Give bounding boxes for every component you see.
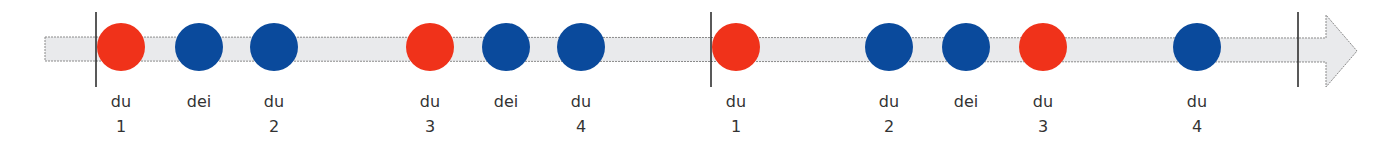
beat-count-label: 3 [400, 117, 460, 137]
beat-count-label: 2 [859, 117, 919, 137]
syllable-label: dei [476, 92, 536, 112]
beat-count-label: 1 [706, 117, 766, 137]
beat-dot [865, 23, 913, 71]
syllable-label: dei [169, 92, 229, 112]
syllable-label: du [244, 92, 304, 112]
syllable-label: du [91, 92, 151, 112]
beat-count-label: 1 [91, 117, 151, 137]
syllable-label: dei [936, 92, 996, 112]
accent-beat-dot [406, 23, 454, 71]
timeline-arrow [45, 15, 1357, 87]
beat-dot [482, 23, 530, 71]
beat-dot [250, 23, 298, 71]
beat-count-label: 3 [1013, 117, 1073, 137]
syllable-label: du [1013, 92, 1073, 112]
beat-dot [175, 23, 223, 71]
beat-count-label: 2 [244, 117, 304, 137]
beat-dot [557, 23, 605, 71]
syllable-label: du [400, 92, 460, 112]
beat-count-label: 4 [551, 117, 611, 137]
accent-beat-dot [712, 23, 760, 71]
beat-dot [1173, 23, 1221, 71]
syllable-label: du [706, 92, 766, 112]
beat-dot [942, 23, 990, 71]
accent-beat-dot [97, 23, 145, 71]
beat-count-label: 4 [1167, 117, 1227, 137]
syllable-label: du [859, 92, 919, 112]
syllable-label: du [1167, 92, 1227, 112]
syllable-label: du [551, 92, 611, 112]
rhythm-timeline: du1deidu2du3deidu4du1du2deidu3du4 [0, 0, 1394, 149]
accent-beat-dot [1019, 23, 1067, 71]
